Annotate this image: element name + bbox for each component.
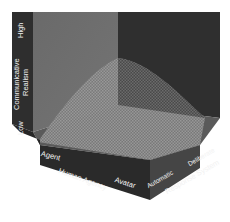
3d-cube-diagram: [0, 0, 230, 222]
vertical-axis-high-label: High: [17, 23, 25, 38]
vertical-axis-name-line1: Communicative: [13, 58, 21, 110]
vertical-axis-name-line2: Realism: [22, 69, 30, 96]
vertical-axis-low-label: Low: [17, 121, 25, 135]
